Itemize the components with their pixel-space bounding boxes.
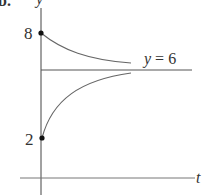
t-axis-label: t	[196, 169, 201, 186]
initial-point-8	[38, 30, 43, 35]
lower-solution-curve	[42, 73, 131, 138]
initial-point-2	[39, 135, 44, 140]
panel-label: b.	[0, 0, 11, 9]
y-tick-8: 8	[24, 24, 33, 43]
y-tick-2: 2	[25, 130, 34, 149]
upper-solution-curve	[41, 33, 131, 63]
y-axis-label: y	[34, 0, 44, 8]
equilibrium-label: y = 6	[142, 50, 176, 68]
chart: b. y t y = 6 8 2	[0, 0, 206, 195]
